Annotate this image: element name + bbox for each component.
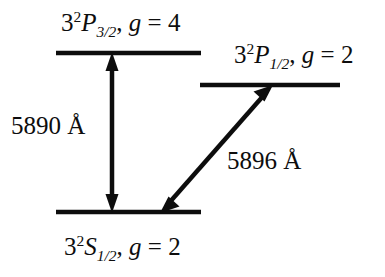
- level-label-p12-j: 1/2: [270, 55, 290, 72]
- level-label-p12-comma: ,: [289, 41, 302, 68]
- transition-label-5890: 5890 Å: [11, 113, 85, 138]
- arrowhead-upright-d1: [254, 85, 274, 102]
- level-label-s12-comma: ,: [117, 233, 130, 260]
- level-label-s12: 32S1/2, g = 2: [64, 234, 181, 259]
- level-label-s12-term: S: [84, 233, 97, 260]
- transition-arrow-d2: [106, 52, 119, 213]
- level-label-p12-g-relation: =: [314, 41, 341, 68]
- level-label-p32-term: P: [81, 9, 96, 36]
- level-label-p12-term: P: [254, 41, 269, 68]
- level-label-s12-g-symbol: g: [129, 233, 142, 260]
- level-label-s12-g-relation: =: [142, 233, 169, 260]
- level-label-s12-j: 1/2: [97, 247, 117, 264]
- level-label-p12-prefix: 3: [234, 41, 247, 68]
- level-label-p12-g-value: 2: [341, 41, 354, 68]
- level-label-p32-g-relation: =: [141, 9, 168, 36]
- level-label-p32-g-symbol: g: [129, 9, 142, 36]
- level-label-p12: 32P1/2, g = 2: [234, 42, 353, 67]
- transition-label-5896: 5896 Å: [227, 148, 301, 173]
- level-label-p32-comma: ,: [116, 9, 129, 36]
- level-label-p12-g-symbol: g: [302, 41, 315, 68]
- level-label-p32: 32P3/2, g = 4: [61, 10, 180, 35]
- level-label-p32-prefix: 3: [61, 9, 74, 36]
- level-label-s12-g-value: 2: [168, 233, 181, 260]
- level-label-p32-g-value: 4: [168, 9, 181, 36]
- level-label-p32-j: 3/2: [97, 23, 117, 40]
- energy-level-diagram: 32P3/2, g = 4 32P1/2, g = 2 32S1/2, g = …: [0, 0, 385, 277]
- level-label-s12-prefix: 3: [64, 233, 77, 260]
